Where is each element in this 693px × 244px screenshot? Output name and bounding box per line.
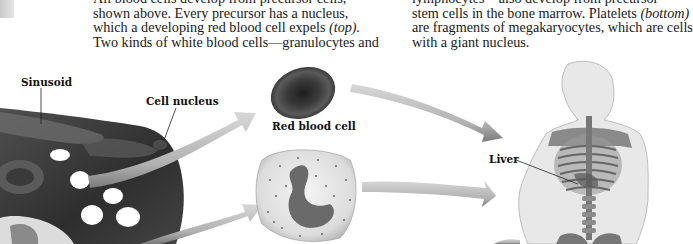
human-body-illustration (519, 61, 648, 244)
label-sinusoid: Sinusoid (21, 76, 72, 88)
granulocyte-illustration (256, 150, 356, 242)
red-blood-cell-illustration (263, 58, 342, 128)
label-liver: Liver (489, 153, 519, 165)
cell-nucleus-leader-line (164, 108, 176, 140)
label-cell-nucleus: Cell nucleus (146, 95, 219, 107)
label-red-blood-cell: Red blood cell (272, 120, 356, 132)
